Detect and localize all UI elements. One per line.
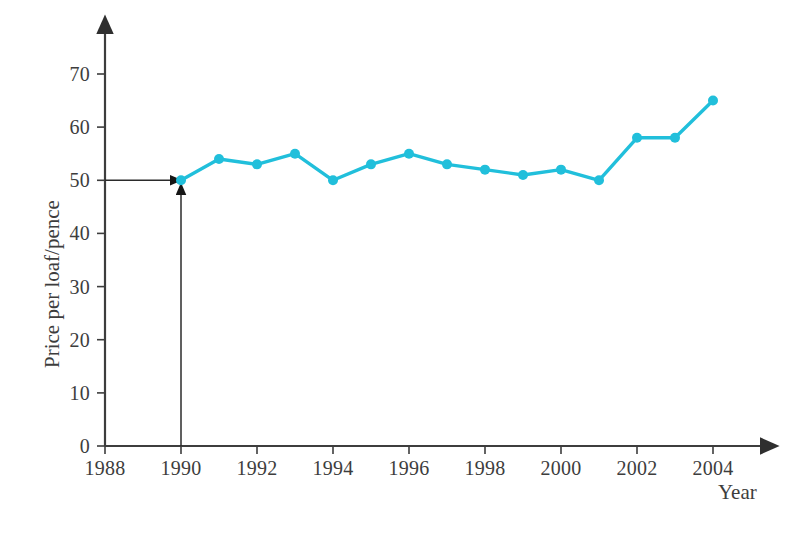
data-point-1996 [404, 149, 414, 159]
data-point-2001 [594, 175, 604, 185]
data-point-1990 [176, 175, 186, 185]
data-point-1993 [290, 149, 300, 159]
y-tick-label-0: 0 [44, 435, 90, 458]
y-tick-label-70: 70 [44, 63, 90, 86]
x-tick-label-1994: 1994 [293, 457, 373, 480]
data-point-2003 [670, 133, 680, 143]
x-tick-label-2000: 2000 [521, 457, 601, 480]
x-axis-title: Year [718, 480, 757, 505]
data-point-1998 [480, 165, 490, 175]
y-tick-label-50: 50 [44, 169, 90, 192]
data-point-2000 [556, 165, 566, 175]
x-tick-label-1988: 1988 [65, 457, 145, 480]
data-point-1995 [366, 159, 376, 169]
y-tick-label-60: 60 [44, 116, 90, 139]
data-point-1997 [442, 159, 452, 169]
x-tick-label-1996: 1996 [369, 457, 449, 480]
data-point-1994 [328, 175, 338, 185]
line-chart-figure: 0 10 20 30 40 50 60 70 1988 1990 1992 19… [0, 0, 794, 538]
x-tick-label-2004: 2004 [673, 457, 753, 480]
y-axis-ticks [97, 74, 105, 446]
x-tick-label-1990: 1990 [141, 457, 221, 480]
x-tick-label-1998: 1998 [445, 457, 525, 480]
data-point-2004 [708, 96, 718, 106]
y-axis-title: Price per loaf/pence [40, 200, 65, 368]
data-point-1991 [214, 154, 224, 164]
x-tick-label-2002: 2002 [597, 457, 677, 480]
data-point-2002 [632, 133, 642, 143]
data-point-1999 [518, 170, 528, 180]
x-tick-label-1992: 1992 [217, 457, 297, 480]
x-axis-ticks [105, 446, 713, 454]
y-tick-label-10: 10 [44, 382, 90, 405]
data-point-markers [176, 96, 718, 186]
data-point-1992 [252, 159, 262, 169]
